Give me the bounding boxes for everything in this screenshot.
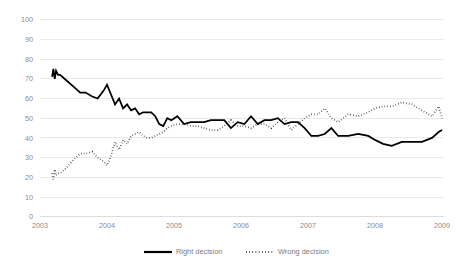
legend-label-wrong-decision: Wrong decision — [278, 247, 329, 256]
x-tick-label: 2009 — [434, 221, 450, 230]
series-line-right-decision — [52, 69, 442, 146]
y-tick-label: 20 — [25, 173, 33, 182]
y-tick-label: 90 — [25, 35, 33, 44]
chart-legend: Right decisionWrong decision — [144, 247, 329, 256]
legend-label-right-decision: Right decision — [176, 247, 222, 256]
x-tick-label: 2004 — [99, 221, 115, 230]
gridlines-group — [40, 20, 444, 217]
y-tick-label: 80 — [25, 55, 33, 64]
line-chart: 0102030405060708090100 20032004200520062… — [0, 0, 462, 268]
x-tick-label: 2007 — [300, 221, 316, 230]
series-line-wrong-decision — [52, 102, 442, 179]
y-tick-label: 30 — [25, 153, 33, 162]
x-tick-label: 2006 — [233, 221, 249, 230]
x-tick-label: 2003 — [32, 221, 48, 230]
x-tick-label: 2008 — [367, 221, 383, 230]
y-tick-label: 60 — [25, 94, 33, 103]
x-tick-label: 2005 — [166, 221, 182, 230]
y-tick-label: 0 — [29, 212, 33, 221]
plot-series-group — [52, 69, 442, 179]
y-axis-tick-labels: 0102030405060708090100 — [21, 15, 33, 221]
y-tick-label: 100 — [21, 15, 33, 24]
y-tick-label: 70 — [25, 74, 33, 83]
x-axis-tick-labels: 2003200420052006200720082009 — [32, 221, 450, 230]
y-tick-label: 40 — [25, 134, 33, 143]
y-tick-label: 50 — [25, 114, 33, 123]
y-tick-label: 10 — [25, 193, 33, 202]
chart-canvas: 0102030405060708090100 20032004200520062… — [0, 0, 462, 268]
